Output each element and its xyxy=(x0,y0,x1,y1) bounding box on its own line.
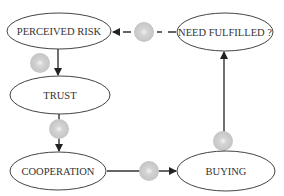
node-label: NEED FULFILLED ? xyxy=(178,27,272,38)
node-label: PERCEIVED RISK xyxy=(17,26,102,37)
node-trust: TRUST xyxy=(10,76,110,114)
marker-coop-buying-icon xyxy=(139,161,159,181)
marker-buying-need-icon xyxy=(213,131,233,151)
node-label: COOPERATION xyxy=(22,166,95,177)
marker-trust-coop-icon xyxy=(49,119,69,139)
marker-feedback-icon xyxy=(134,22,154,42)
flow-diagram: PERCEIVED RISK NEED FULFILLED ? TRUST CO… xyxy=(0,0,284,196)
node-perceived-risk: PERCEIVED RISK xyxy=(7,13,111,49)
node-label: TRUST xyxy=(43,90,77,101)
node-label: BUYING xyxy=(206,166,247,177)
node-buying: BUYING xyxy=(177,151,275,191)
node-cooperation: COOPERATION xyxy=(10,152,106,190)
node-need-fulfilled: NEED FULFILLED ? xyxy=(177,13,273,51)
marker-risk-trust-icon xyxy=(30,53,50,73)
